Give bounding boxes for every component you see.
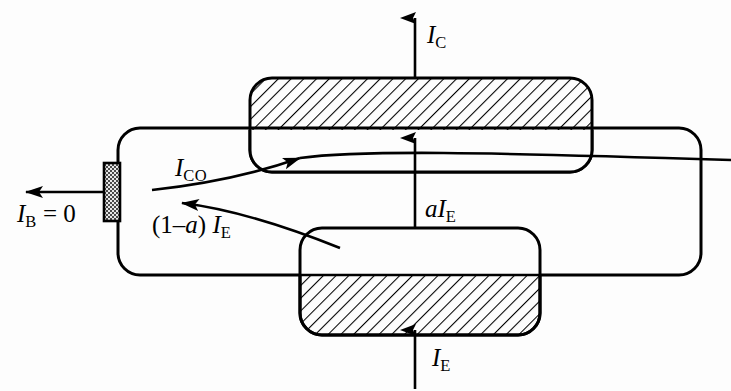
label-one-minus-a-ie-symbol: I	[212, 211, 220, 238]
label-ib-value: = 0	[37, 200, 76, 227]
emitter-region	[300, 228, 540, 335]
label-one-minus-a-ie-minus: –	[173, 211, 186, 238]
label-a-ie-symbol: I	[438, 195, 446, 222]
base-contact	[104, 163, 120, 221]
diagram-canvas: IC ICO IB = 0 aIE (1–a) IE IE	[0, 0, 731, 391]
label-one-minus-a-ie-close: )	[198, 211, 206, 238]
label-one-minus-a-ie-alpha: a	[185, 211, 198, 238]
label-ico-subscript: CO	[183, 166, 207, 185]
label-ie-subscript: E	[440, 356, 450, 375]
label-one-minus-a-ie-prefix: (1	[152, 211, 173, 238]
label-ib: IB = 0	[17, 201, 76, 230]
label-ib-subscript: B	[25, 212, 36, 231]
label-ic: IC	[427, 22, 447, 51]
label-ie: IE	[432, 345, 451, 374]
label-ic-subscript: C	[435, 33, 446, 52]
label-ico: ICO	[175, 155, 207, 184]
label-a-ie-alpha: a	[425, 195, 438, 222]
label-a-ie-subscript: E	[446, 207, 456, 226]
label-one-minus-a-ie-subscript: E	[221, 223, 231, 242]
label-one-minus-a-ie: (1–a) IE	[152, 212, 231, 241]
transistor-cross-section-diagram	[0, 0, 731, 391]
label-a-ie: aIE	[425, 196, 456, 225]
